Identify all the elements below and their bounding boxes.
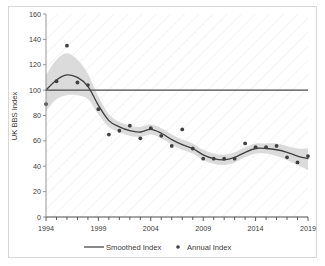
data-point [254, 145, 258, 149]
data-point [76, 81, 80, 85]
chart-figure: 0204060801001201401601994199920042009201… [0, 0, 325, 266]
data-point [65, 44, 69, 48]
y-tick-label: 160 [29, 10, 41, 19]
data-point [180, 128, 184, 132]
x-tick-label: 2014 [248, 224, 264, 233]
y-tick-label: 120 [29, 60, 41, 69]
data-point [191, 147, 195, 151]
y-tick-label: 40 [33, 162, 41, 171]
x-tick-label: 1999 [90, 224, 106, 233]
y-tick-label: 60 [33, 136, 41, 145]
data-point [149, 126, 153, 130]
y-tick-label: 0 [37, 213, 41, 222]
legend-label-annual: Annual Index [187, 243, 232, 252]
legend-dot-swatch [176, 245, 180, 249]
x-tick-label: 2009 [195, 224, 211, 233]
y-tick-label: 140 [29, 35, 41, 44]
data-point [97, 107, 101, 111]
legend-label-smoothed: Smoothed Index [106, 243, 162, 252]
data-point [170, 144, 174, 148]
chart-legend: Smoothed Index Annual Index [84, 243, 232, 252]
data-point [285, 155, 289, 159]
x-tick-label: 1994 [38, 224, 54, 233]
data-point [233, 157, 237, 161]
x-tick-label: 2019 [300, 224, 316, 233]
data-point [86, 83, 90, 87]
data-point [117, 129, 121, 133]
data-point [201, 157, 205, 161]
data-point [159, 134, 163, 138]
data-point [306, 154, 310, 158]
y-tick-label: 100 [29, 86, 41, 95]
y-axis-title: UK BBS Index [10, 92, 19, 141]
data-point [138, 136, 142, 140]
data-point [275, 144, 279, 148]
data-point [264, 145, 268, 149]
data-point [243, 142, 247, 146]
data-point [107, 133, 111, 137]
data-point [296, 161, 300, 165]
data-point [222, 157, 226, 161]
y-tick-label: 80 [33, 111, 41, 120]
data-point [212, 157, 216, 161]
plot-background [46, 14, 308, 217]
y-tick-label: 20 [33, 187, 41, 196]
chart-svg: 0204060801001201401601994199920042009201… [0, 0, 325, 266]
x-tick-label: 2004 [143, 224, 159, 233]
plot-area: 0204060801001201401601994199920042009201… [0, 0, 325, 266]
data-point [55, 79, 59, 83]
data-point [128, 124, 132, 128]
